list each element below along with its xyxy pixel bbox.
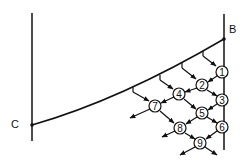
node-2: 2	[196, 79, 208, 91]
point-b-dot	[222, 37, 226, 41]
point-c-label: C	[11, 118, 19, 130]
node-8: 8	[174, 122, 186, 134]
svg-text:1: 1	[219, 67, 225, 78]
diagram-canvas: B C	[0, 0, 247, 162]
node-7: 7	[149, 100, 161, 112]
svg-text:3: 3	[219, 95, 225, 106]
node-5: 5	[196, 107, 208, 119]
node-4: 4	[173, 88, 185, 100]
svg-text:2: 2	[199, 80, 205, 91]
point-b-label: B	[229, 23, 236, 35]
node-6: 6	[216, 121, 228, 133]
svg-text:8: 8	[177, 123, 183, 134]
svg-text:7: 7	[152, 101, 158, 112]
node-9: 9	[194, 137, 206, 149]
svg-text:5: 5	[199, 108, 205, 119]
svg-text:4: 4	[176, 89, 182, 100]
svg-text:6: 6	[219, 122, 225, 133]
node-3: 3	[216, 94, 228, 106]
node-1: 1	[216, 66, 228, 78]
boundary-curve	[32, 39, 224, 125]
svg-text:9: 9	[197, 138, 203, 149]
point-c-dot	[30, 123, 34, 127]
